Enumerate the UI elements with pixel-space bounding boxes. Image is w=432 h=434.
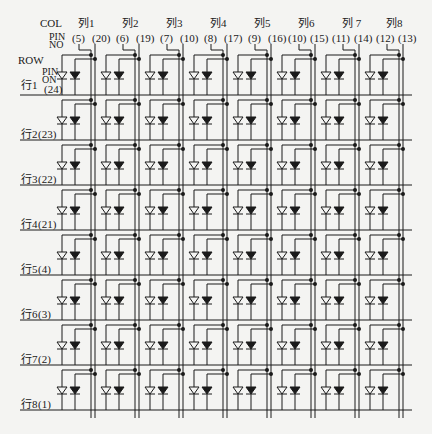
column-label: 列3 <box>166 18 183 29</box>
column-label: 列8 <box>386 18 403 29</box>
row-pin: (21) <box>38 219 56 230</box>
pin-no-label-line2: NO <box>49 40 63 49</box>
column-label: 列5 <box>254 18 271 29</box>
row-label: 行5 <box>21 264 38 275</box>
row-pin: (24) <box>44 84 62 95</box>
column-label: 列4 <box>210 18 227 29</box>
column-pin-b: (13) <box>398 33 416 44</box>
column-label: 列6 <box>298 18 315 29</box>
column-pin-b: (16) <box>268 33 286 44</box>
circuit-wiring <box>0 0 432 434</box>
row-label: 行1 <box>21 80 38 91</box>
column-pin-a: (7) <box>160 33 173 44</box>
column-pin-b: (19) <box>136 33 154 44</box>
column-pin-a: (9) <box>248 33 261 44</box>
row-header-label: ROW <box>18 55 44 66</box>
row-pin: (23) <box>38 129 56 140</box>
row-pin: (3) <box>38 309 51 320</box>
column-pin-b: (15) <box>310 33 328 44</box>
row-label: 行8 <box>21 399 38 410</box>
row-label: 行4 <box>21 219 38 230</box>
row-pin: (4) <box>38 264 51 275</box>
column-pin-b: (17) <box>224 33 242 44</box>
column-label: 列1 <box>78 18 95 29</box>
row-label: 行7 <box>21 354 38 365</box>
row-pin: (22) <box>38 174 56 185</box>
column-pin-b: (10) <box>180 33 198 44</box>
row-label: 行2 <box>21 129 38 140</box>
column-pin-a: (10) <box>288 33 306 44</box>
column-pin-a: (5) <box>72 33 85 44</box>
column-pin-a: (6) <box>116 33 129 44</box>
col-header-label: COL <box>40 18 62 29</box>
column-pin-b: (20) <box>92 33 110 44</box>
led-matrix-diagram: COL PIN NO ROW PIN ON 列1(5)(20)列2(6)(19)… <box>0 0 432 434</box>
row-label: 行6 <box>21 309 38 320</box>
column-pin-b: (14) <box>354 33 372 44</box>
row-label: 行3 <box>21 174 38 185</box>
column-label: 列 7 <box>342 18 361 29</box>
column-label: 列2 <box>122 18 139 29</box>
column-pin-a: (12) <box>376 33 394 44</box>
column-pin-a: (8) <box>204 33 217 44</box>
column-pin-a: (11) <box>332 33 350 44</box>
row-pin: (1) <box>38 399 51 410</box>
row-pin: (2) <box>38 354 51 365</box>
